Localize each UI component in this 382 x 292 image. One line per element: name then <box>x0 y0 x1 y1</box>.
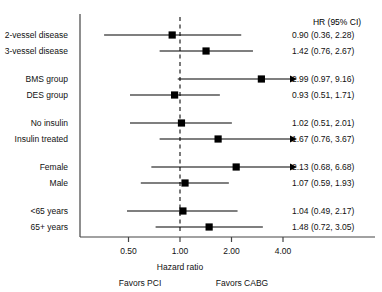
point-estimate-marker <box>171 91 178 98</box>
row-hr-value: 1.07 (0.59, 1.93) <box>292 178 382 188</box>
forest-row <box>141 179 229 186</box>
row-hr-value: 1.42 (0.76, 2.67) <box>292 46 382 56</box>
forest-plot: 2-vessel disease3-vessel diseaseBMS grou… <box>0 0 382 292</box>
x-tick-label-3: 4.00 <box>275 246 292 256</box>
point-estimate-marker <box>233 163 240 170</box>
forest-row <box>160 135 297 142</box>
row-label: DES group <box>0 90 74 100</box>
hr-value-column: HR (95% CI) 0.90 (0.36, 2.28)1.42 (0.76,… <box>292 0 382 292</box>
row-label: 65+ years <box>0 222 74 232</box>
row-label: 3-vessel disease <box>0 46 74 56</box>
point-estimate-marker <box>181 179 188 186</box>
x-tick-label-0: 0.50 <box>120 246 137 256</box>
row-hr-value: 1.48 (0.72, 3.05) <box>292 222 382 232</box>
row-hr-value: 2.99 (0.97, 9.16) <box>292 74 382 84</box>
x-tick-label-1: 1.00 <box>172 246 189 256</box>
row-hr-value: 0.93 (0.51, 1.71) <box>292 90 382 100</box>
row-hr-value: 1.04 (0.49, 2.17) <box>292 206 382 216</box>
forest-row <box>151 163 297 170</box>
forest-row <box>127 207 238 214</box>
hr-column-header: HR (95% CI) <box>292 17 382 27</box>
forest-row <box>104 31 241 38</box>
forest-row <box>178 75 297 82</box>
x-axis-label: Hazard ratio <box>157 262 203 272</box>
forest-row <box>156 223 263 230</box>
favors-left-label: Favors PCI <box>119 278 162 288</box>
x-tick-label-2: 2.00 <box>223 246 240 256</box>
point-estimate-marker <box>215 135 222 142</box>
point-estimate-marker <box>179 207 186 214</box>
favors-right-label: Favors CABG <box>216 278 268 288</box>
point-estimate-marker <box>169 31 176 38</box>
point-estimate-marker <box>178 119 185 126</box>
row-label: 2-vessel disease <box>0 30 74 40</box>
row-label: Male <box>0 178 74 188</box>
row-label: No insulin <box>0 118 74 128</box>
forest-row <box>130 119 232 126</box>
row-hr-value: 1.02 (0.51, 2.01) <box>292 118 382 128</box>
point-estimate-marker <box>258 75 265 82</box>
row-hr-value: 1.67 (0.76, 3.67) <box>292 134 382 144</box>
row-label: Insulin treated <box>0 134 74 144</box>
forest-row <box>160 47 253 54</box>
row-hr-value: 2.13 (0.68, 6.68) <box>292 162 382 172</box>
row-label: Female <box>0 162 74 172</box>
row-hr-value: 0.90 (0.36, 2.28) <box>292 30 382 40</box>
row-label: <65 years <box>0 206 74 216</box>
point-estimate-marker <box>206 223 213 230</box>
forest-row <box>130 91 220 98</box>
row-label-column: 2-vessel disease3-vessel diseaseBMS grou… <box>0 0 74 292</box>
point-estimate-marker <box>202 47 209 54</box>
row-label: BMS group <box>0 74 74 84</box>
